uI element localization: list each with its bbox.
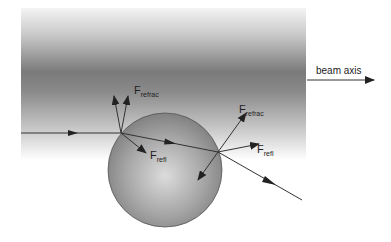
diagram-canvas: beam axis Frefrac Frefl Frefrac Frefl (0, 0, 391, 242)
outgoing-ray-arrow-icon (262, 176, 276, 185)
force-subscript: refrac (246, 110, 264, 117)
beam-axis-text: beam axis (316, 65, 362, 76)
beam-axis-label: beam axis (316, 66, 362, 76)
force-subscript: refl (264, 150, 274, 157)
f-refrac-left-label: Frefrac (134, 85, 159, 96)
force-symbol: F (257, 143, 264, 155)
f-refrac-right-label: Frefrac (239, 104, 264, 115)
force-subscript: refrac (141, 91, 159, 98)
f-refl-left-label: Frefl (150, 150, 166, 161)
diagram-svg (0, 0, 391, 242)
f-refl-right-label: Frefl (257, 144, 273, 155)
force-symbol: F (239, 103, 246, 115)
force-subscript: refl (157, 156, 167, 163)
force-symbol: F (150, 149, 157, 161)
force-symbol: F (134, 84, 141, 96)
